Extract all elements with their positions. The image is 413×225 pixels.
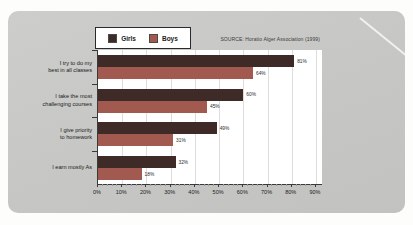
category-label: I give priority to homework xyxy=(12,122,92,146)
bar-girls xyxy=(98,156,176,168)
bar-value-label: 81% xyxy=(297,55,307,67)
gridline xyxy=(292,50,293,184)
girls-swatch-icon xyxy=(108,34,117,43)
legend-label: Girls xyxy=(121,35,136,42)
plot-area: 81%64%60%45%49%31%32%18% xyxy=(97,50,322,185)
x-axis-tick-label: 40% xyxy=(181,189,207,195)
bar-boys xyxy=(98,67,253,79)
gridline xyxy=(316,50,317,184)
gridline xyxy=(268,50,269,184)
legend-item-boys: Boys xyxy=(149,34,178,43)
x-axis-tick-label: 0% xyxy=(84,189,110,195)
bar-girls xyxy=(98,55,294,67)
bar-boys xyxy=(98,101,207,113)
bar-value-label: 31% xyxy=(176,134,186,146)
bar-girls xyxy=(98,122,217,134)
source-note: SOURCE: Horatio Alger Association (1999) xyxy=(220,36,320,42)
x-axis-tick-label: 60% xyxy=(229,189,255,195)
y-axis-tick xyxy=(92,84,97,85)
chart-card: GirlsBoys SOURCE: Horatio Alger Associat… xyxy=(8,11,405,213)
bar-boys xyxy=(98,168,142,180)
legend: GirlsBoys xyxy=(95,27,191,49)
x-axis-tick-label: 70% xyxy=(254,189,280,195)
boys-swatch-icon xyxy=(149,34,158,43)
bar-value-label: 18% xyxy=(145,168,155,180)
bar-value-label: 60% xyxy=(246,89,256,101)
diagonal-highlight xyxy=(359,17,405,75)
bar-value-label: 49% xyxy=(220,122,230,134)
category-label: I try to do my best in all classes xyxy=(12,55,92,79)
x-axis-tick-label: 20% xyxy=(132,189,158,195)
category-label: I earn mostly As xyxy=(12,156,92,180)
x-axis-tick-label: 80% xyxy=(278,189,304,195)
category-label: I take the most challenging courses xyxy=(12,89,92,113)
y-axis-tick xyxy=(92,117,97,118)
legend-label: Boys xyxy=(162,35,178,42)
bar-value-label: 45% xyxy=(210,101,220,113)
x-axis-tick-label: 50% xyxy=(205,189,231,195)
y-axis-tick xyxy=(92,50,97,51)
category-labels: I try to do my best in all classesI take… xyxy=(12,50,92,184)
bar-value-label: 32% xyxy=(179,156,189,168)
bar-girls xyxy=(98,89,243,101)
x-axis-tick-label: 30% xyxy=(157,189,183,195)
x-axis-tick-label: 90% xyxy=(302,189,328,195)
x-axis-tick-label: 10% xyxy=(108,189,134,195)
bar-boys xyxy=(98,134,173,146)
bar-value-label: 64% xyxy=(256,67,266,79)
legend-item-girls: Girls xyxy=(108,34,136,43)
y-axis-tick xyxy=(92,151,97,152)
page: GirlsBoys SOURCE: Horatio Alger Associat… xyxy=(0,0,413,225)
